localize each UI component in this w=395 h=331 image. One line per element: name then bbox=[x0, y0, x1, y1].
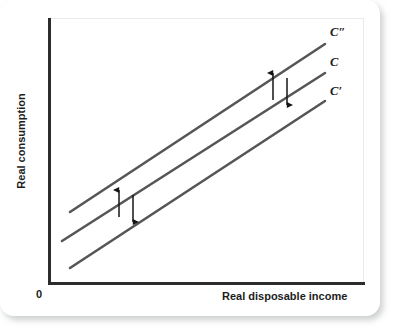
x-axis-line bbox=[48, 282, 365, 285]
origin-label: 0 bbox=[36, 288, 42, 300]
curve-label-c-baseline: C bbox=[330, 55, 339, 70]
y-axis-line bbox=[48, 18, 51, 285]
plot-frame-top-edge bbox=[50, 18, 364, 19]
x-axis-title: Real disposable income bbox=[222, 290, 347, 302]
curve-label-c-double-prime: C″ bbox=[330, 25, 346, 40]
plot-frame-right-edge bbox=[363, 18, 364, 283]
curve-label-c-prime: C′ bbox=[330, 84, 342, 99]
figure-card: C″ C C′ Real consumption Real disposable… bbox=[0, 0, 380, 316]
y-axis-title: Real consumption bbox=[15, 81, 27, 201]
plot-area bbox=[50, 18, 364, 283]
